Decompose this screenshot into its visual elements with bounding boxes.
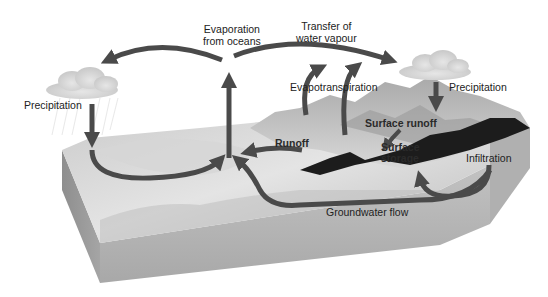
label-infiltration: Infiltration [466,152,512,164]
cloud-right [399,50,471,80]
arrow-to-left-cloud [108,48,222,61]
label-runoff: Runoff [275,137,309,149]
label-surface-storage: Surface storage [381,142,420,164]
label-surface-runoff: Surface runoff [365,117,437,129]
label-evapotranspiration: Evapotranspiration [290,81,378,93]
label-groundwater-flow: Groundwater flow [326,206,408,218]
label-transfer-of-water-vapour: Transfer of water vapour [296,20,357,44]
label-precipitation-left: Precipitation [24,99,82,111]
label-precipitation-right: Precipitation [449,81,507,93]
label-evaporation-from-oceans: Evaporation from oceans [203,23,261,47]
water-cycle-diagram [0,0,548,297]
